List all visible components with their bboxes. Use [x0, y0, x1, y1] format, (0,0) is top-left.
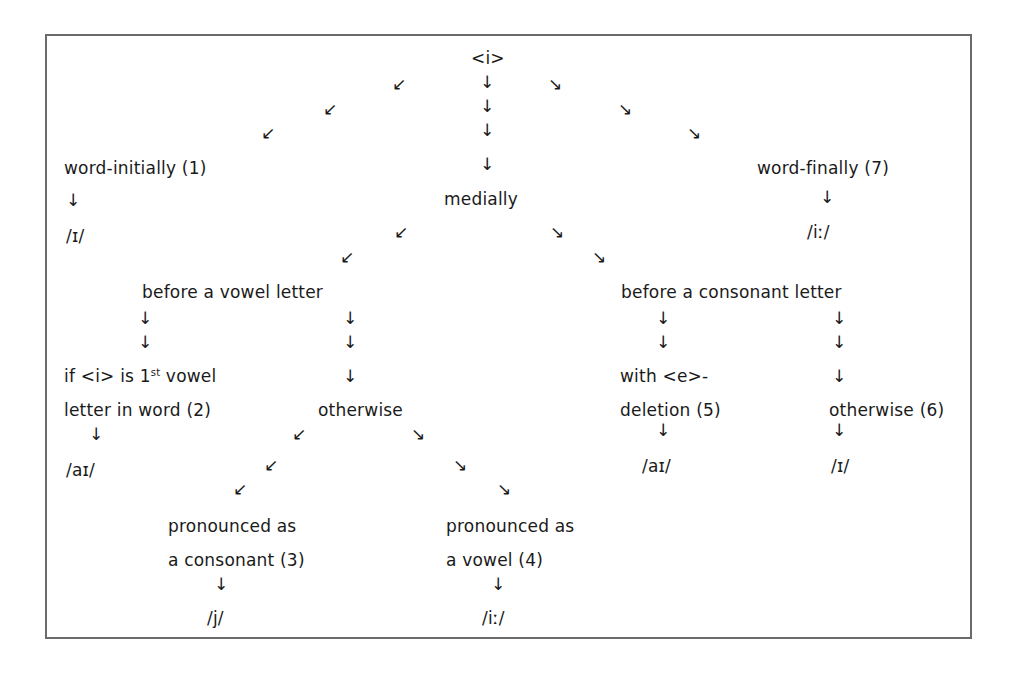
arrow-down-right-icon: ↘ — [550, 222, 564, 242]
outcome-word-finally: /iː/ — [807, 222, 830, 242]
arrow-down-icon: ↓ — [656, 332, 670, 352]
arrow-down-icon: ↓ — [343, 366, 357, 386]
arrow-down-right-icon: ↘ — [497, 479, 511, 499]
arrow-down-right-icon: ↘ — [411, 424, 425, 444]
arrow-down-icon: ↓ — [832, 332, 846, 352]
node-vowel-line2: a vowel (4) — [446, 550, 543, 570]
arrow-down-icon: ↓ — [480, 96, 494, 116]
arrow-down-right-icon: ↘ — [618, 99, 632, 119]
arrow-down-icon: ↓ — [656, 308, 670, 328]
arrow-down-left-icon: ↙ — [340, 247, 354, 267]
arrow-down-icon: ↓ — [491, 574, 505, 594]
arrow-down-left-icon: ↙ — [264, 455, 278, 475]
arrow-down-icon: ↓ — [480, 120, 494, 140]
arrow-down-left-icon: ↙ — [394, 222, 408, 242]
arrow-down-icon: ↓ — [820, 187, 834, 207]
arrow-down-left-icon: ↙ — [392, 74, 406, 94]
arrow-down-icon: ↓ — [343, 308, 357, 328]
arrow-down-icon: ↓ — [138, 308, 152, 328]
node-otherwise: otherwise — [318, 400, 403, 420]
outcome-first-vowel: /aɪ/ — [66, 460, 95, 480]
root-node: <i> — [471, 48, 505, 68]
arrow-down-right-icon: ↘ — [453, 455, 467, 475]
arrow-down-left-icon: ↙ — [261, 123, 275, 143]
arrow-down-icon: ↓ — [832, 308, 846, 328]
arrow-down-icon: ↓ — [66, 190, 80, 210]
node-e-deletion-line1: with <e>- — [620, 366, 708, 386]
node-e-deletion-line2: deletion (5) — [620, 400, 721, 420]
node-first-vowel-line1: if <i> is 1st vowel — [64, 366, 216, 386]
arrow-down-left-icon: ↙ — [292, 424, 306, 444]
outcome-vowel: /iː/ — [482, 608, 505, 628]
node-before-vowel: before a vowel letter — [142, 282, 323, 302]
node-vowel-line1: pronounced as — [446, 516, 574, 536]
outcome-otherwise-6: /ɪ/ — [831, 456, 849, 476]
node-medially: medially — [444, 189, 518, 209]
outcome-consonant: /j/ — [207, 608, 224, 628]
arrow-down-right-icon: ↘ — [592, 247, 606, 267]
outcome-word-initially: /ɪ/ — [66, 226, 84, 246]
node-otherwise-6: otherwise (6) — [829, 400, 944, 420]
arrow-down-left-icon: ↙ — [233, 479, 247, 499]
node-word-finally: word-finally (7) — [757, 158, 889, 178]
arrow-down-left-icon: ↙ — [323, 99, 337, 119]
node-consonant-line1: pronounced as — [168, 516, 296, 536]
arrow-down-right-icon: ↘ — [687, 123, 701, 143]
outcome-e-deletion: /aɪ/ — [642, 456, 671, 476]
arrow-down-icon: ↓ — [343, 332, 357, 352]
node-word-initially: word-initially (1) — [64, 158, 207, 178]
arrow-down-icon: ↓ — [832, 366, 846, 386]
arrow-down-icon: ↓ — [89, 424, 103, 444]
node-consonant-line2: a consonant (3) — [168, 550, 305, 570]
arrow-down-icon: ↓ — [138, 332, 152, 352]
arrow-down-icon: ↓ — [480, 154, 494, 174]
arrow-down-icon: ↓ — [480, 72, 494, 92]
arrow-down-icon: ↓ — [214, 574, 228, 594]
arrow-down-icon: ↓ — [832, 420, 846, 440]
node-first-vowel-line2: letter in word (2) — [64, 400, 211, 420]
arrow-down-right-icon: ↘ — [548, 74, 562, 94]
arrow-down-icon: ↓ — [656, 420, 670, 440]
node-before-consonant: before a consonant letter — [621, 282, 842, 302]
